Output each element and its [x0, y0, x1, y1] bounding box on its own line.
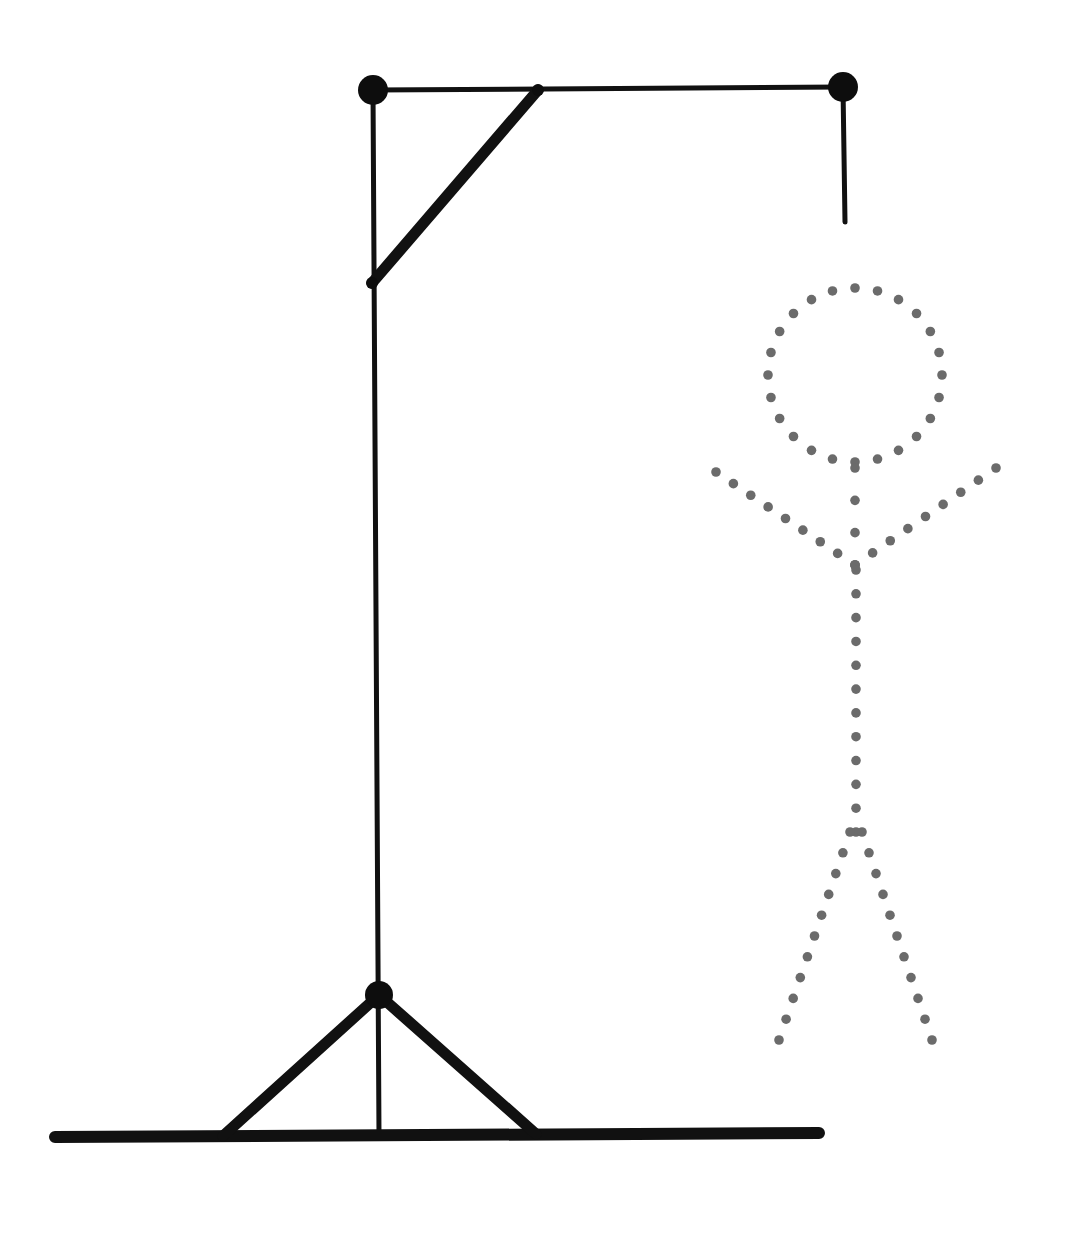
figure-leg-left-dot: [845, 827, 855, 837]
figure-torso-dot: [851, 565, 861, 575]
figure-neck-dot: [850, 463, 860, 473]
head-dot: [894, 295, 904, 305]
figure-arm-left-dot: [763, 502, 773, 512]
figure-arm-right-dot: [956, 487, 966, 497]
figure-arm-left-dot: [798, 525, 808, 535]
head-dot: [807, 446, 817, 456]
figure-arm-right-dot: [903, 524, 913, 534]
hangman-scene: [0, 0, 1069, 1237]
head-dot: [934, 393, 944, 403]
head-dot: [766, 348, 776, 358]
figure-arm-left-dot: [815, 537, 825, 547]
figure-leg-left-dot: [838, 848, 848, 858]
head-dot: [873, 286, 883, 296]
figure-leg-right-dot: [857, 827, 867, 837]
figure-leg-left-dot: [781, 1014, 791, 1024]
figure-arm-right-dot: [938, 500, 948, 510]
figure-leg-right-dot: [885, 910, 895, 920]
hanging-rope: [843, 87, 845, 222]
figure-torso-dot: [851, 660, 861, 670]
figure-arm-right-dot: [974, 475, 984, 485]
canvas-background: [0, 0, 1069, 1237]
figure-torso-dot: [851, 684, 861, 694]
figure-torso-dot: [851, 589, 861, 599]
head-dot: [828, 454, 838, 464]
figure-arm-right-dot: [991, 463, 1001, 473]
figure-neck-dot: [850, 496, 860, 506]
head-dot: [937, 370, 947, 380]
figure-arm-left-dot: [746, 490, 756, 500]
figure-leg-left-dot: [788, 994, 798, 1004]
figure-torso-dot: [851, 613, 861, 623]
head-dot: [789, 432, 799, 442]
figure-arm-left-dot: [729, 479, 739, 489]
ground-line: [55, 1133, 819, 1137]
figure-leg-left-dot: [810, 931, 820, 941]
head-dot: [775, 414, 785, 424]
head-dot: [873, 454, 883, 464]
figure-torso-dot: [851, 637, 861, 647]
top-beam: [373, 87, 843, 90]
top-right-node: [828, 72, 858, 102]
figure-leg-left-dot: [796, 973, 806, 983]
figure-leg-right-dot: [927, 1035, 937, 1045]
head-dot: [926, 327, 936, 337]
figure-leg-left-dot: [803, 952, 813, 962]
figure-torso-dot: [851, 732, 861, 742]
head-dot: [766, 393, 776, 403]
head-dot: [894, 446, 904, 456]
brace-upper-joint: [532, 84, 544, 96]
figure-leg-left-dot: [831, 869, 841, 879]
figure-leg-right-dot: [920, 1014, 930, 1024]
figure-arm-left-dot: [781, 514, 791, 524]
base-node: [365, 981, 393, 1009]
figure-neck-dot: [850, 528, 860, 538]
figure-arm-right-dot: [885, 536, 895, 546]
figure-torso-dot: [851, 780, 861, 790]
figure-torso-dot: [851, 708, 861, 718]
figure-torso-dot: [851, 756, 861, 766]
head-dot: [850, 283, 860, 293]
figure-arm-right-dot: [868, 548, 878, 558]
figure-leg-right-dot: [864, 848, 874, 858]
brace-lower-joint: [366, 277, 378, 289]
figure-leg-right-dot: [906, 973, 916, 983]
head-dot: [912, 432, 922, 442]
top-left-node: [358, 75, 388, 105]
figure-arm-left-dot: [711, 467, 721, 477]
figure-leg-right-dot: [871, 869, 881, 879]
figure-arm-left-dot: [833, 549, 843, 559]
head-dot: [828, 286, 838, 296]
head-dot: [912, 309, 922, 319]
figure-leg-left-dot: [824, 890, 834, 900]
figure-leg-right-dot: [892, 931, 902, 941]
figure-leg-right-dot: [878, 890, 888, 900]
figure-leg-right-dot: [899, 952, 909, 962]
head-dot: [789, 309, 799, 319]
head-dot: [934, 348, 944, 358]
head-dot: [775, 327, 785, 337]
drawing-canvas: [0, 0, 1069, 1237]
figure-leg-left-dot: [774, 1035, 784, 1045]
figure-torso-dot: [851, 803, 861, 813]
figure-leg-left-dot: [817, 910, 827, 920]
figure-arm-right-dot: [921, 512, 931, 522]
head-dot: [763, 370, 773, 380]
head-dot: [807, 295, 817, 305]
head-dot: [926, 414, 936, 424]
figure-leg-right-dot: [913, 994, 923, 1004]
